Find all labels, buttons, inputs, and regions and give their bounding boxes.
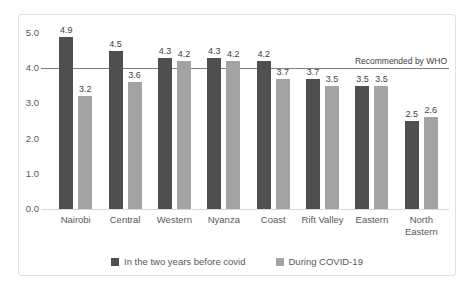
bar-group: 4.34.2 [150,33,199,209]
bar-value-label: 4.2 [178,49,191,60]
bar-group: 4.23.7 [249,33,298,209]
bar-value-label: 3.5 [356,74,369,85]
legend-swatch-before-covid-icon [111,258,119,266]
y-axis-tick: 1.0 [19,168,39,180]
bar-before-covid: 4.3 [158,58,172,209]
bar-group: 4.93.2 [51,33,100,209]
bar-during-covid: 3.7 [276,79,290,209]
bar-value-label: 3.7 [307,67,320,78]
chart-canvas: 0.01.02.03.04.05.0 Recommended by WHO 4.… [0,0,472,290]
bar-before-covid: 4.9 [59,37,73,209]
y-axis: 0.01.02.03.04.05.0 [19,15,39,275]
bar-value-label: 4.2 [257,49,270,60]
y-axis-tick: 0.0 [19,203,39,215]
bar-during-covid: 3.6 [128,82,142,209]
category-label: Rift Valley [298,214,347,238]
chart-frame: 0.01.02.03.04.05.0 Recommended by WHO 4.… [18,14,456,276]
bar-before-covid: 3.7 [306,79,320,209]
bar-value-label: 3.5 [326,74,339,85]
category-label: Central [100,214,149,238]
category-label: Coast [249,214,298,238]
bar-before-covid: 3.5 [355,86,369,209]
category-axis: NairobiCentralWesternNyanzaCoastRift Val… [51,214,446,238]
bar-value-label: 3.5 [375,74,388,85]
bar-value-label: 3.7 [276,67,289,78]
bar-group: 4.53.6 [100,33,149,209]
bar-group: 4.34.2 [199,33,248,209]
legend-item-during-covid: During COVID-19 [276,256,363,268]
y-axis-tick: 4.0 [19,62,39,74]
bar-value-label: 4.5 [109,39,122,50]
y-axis-tick: 2.0 [19,133,39,145]
bar-before-covid: 4.3 [207,58,221,209]
bar-value-label: 4.3 [159,46,172,57]
legend: In the two years before covid During COV… [19,256,455,268]
bar-during-covid: 3.2 [78,96,92,209]
category-label: Western [150,214,199,238]
bar-value-label: 4.2 [227,49,240,60]
bar-group: 3.53.5 [347,33,396,209]
category-label: Nyanza [199,214,248,238]
category-label: Eastern [347,214,396,238]
legend-label-during-covid: During COVID-19 [289,256,363,268]
legend-label-before-covid: In the two years before covid [124,256,245,268]
bar-value-label: 4.9 [60,25,73,36]
bar-value-label: 2.5 [406,109,419,120]
bar-before-covid: 4.5 [109,51,123,209]
bar-value-label: 3.6 [128,70,141,81]
bar-during-covid: 3.5 [374,86,388,209]
legend-item-before-covid: In the two years before covid [111,256,245,268]
y-axis-tick: 3.0 [19,97,39,109]
category-label: North Eastern [397,214,446,238]
bar-during-covid: 4.2 [177,61,191,209]
bar-before-covid: 4.2 [257,61,271,209]
bar-during-covid: 2.6 [424,117,438,209]
bar-before-covid: 2.5 [405,121,419,209]
bar-group: 2.52.6 [397,33,446,209]
y-axis-tick: 5.0 [19,27,39,39]
bar-during-covid: 3.5 [325,86,339,209]
bar-during-covid: 4.2 [226,61,240,209]
bar-value-label: 4.3 [208,46,221,57]
bars-row: 4.93.24.53.64.34.24.34.24.23.73.73.53.53… [51,33,446,209]
x-axis-line [41,209,449,210]
bar-value-label: 3.2 [79,84,92,95]
bar-group: 3.73.5 [298,33,347,209]
legend-swatch-during-covid-icon [276,258,284,266]
bar-value-label: 2.6 [425,105,438,116]
category-label: Nairobi [51,214,100,238]
